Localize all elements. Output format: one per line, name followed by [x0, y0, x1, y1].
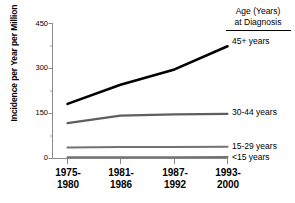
incidence-line-chart: Incidence per Year per Million 450 300 1… — [0, 0, 295, 203]
series-label-under-15: <15 years — [232, 152, 270, 162]
x-tick-label-line-bottom: 1986 — [94, 179, 148, 191]
legend-title-line-1: Age (Years) — [224, 6, 292, 17]
x-tick-label-line-top: 1981- — [94, 167, 148, 179]
series-line-45plus — [68, 46, 228, 104]
series-label-30-44: 30-44 years — [232, 107, 277, 117]
x-tick-label-1987-1992: 1987- 1992 — [148, 167, 202, 191]
legend-title: Age (Years) at Diagnosis — [224, 6, 292, 27]
x-tick-label-line-bottom: 1992 — [148, 179, 202, 191]
x-tick-label-1993-2000: 1993- 2000 — [201, 167, 255, 191]
x-tick-label-line-top: 1975- — [41, 167, 95, 179]
x-tick-label-line-bottom: 2000 — [201, 179, 255, 191]
x-tick-label-line-top: 1987- — [148, 167, 202, 179]
x-tick-label-line-top: 1993- — [201, 167, 255, 179]
series-label-45plus: 45+ years — [232, 36, 270, 46]
x-axis-ticks — [68, 159, 228, 165]
series-line-30-44 — [68, 114, 228, 123]
x-tick-label-1981-1986: 1981- 1986 — [94, 167, 148, 191]
series-line-15-29 — [68, 147, 228, 148]
x-tick-label-line-bottom: 1980 — [41, 179, 95, 191]
x-tick-label-1975-1980: 1975- 1980 — [41, 167, 95, 191]
series-label-15-29: 15-29 years — [232, 141, 277, 151]
legend-divider — [226, 30, 291, 31]
legend-title-line-2: at Diagnosis — [224, 17, 292, 28]
